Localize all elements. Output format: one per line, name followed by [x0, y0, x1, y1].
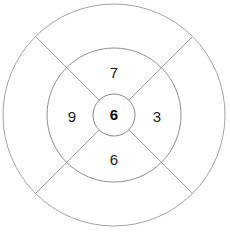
sector-value-right: 3 — [153, 108, 161, 125]
divider-line-upper-right — [129, 37, 193, 101]
divider-line-upper-left — [36, 37, 100, 101]
sector-value-bottom: 6 — [110, 151, 118, 168]
sector-value-left: 9 — [68, 108, 76, 125]
sector-value-top: 7 — [110, 64, 118, 81]
concentric-circle-puzzle-svg: 7 9 3 6 6 — [0, 0, 230, 235]
divider-line-lower-left — [36, 130, 100, 194]
center-value: 6 — [110, 106, 118, 123]
divider-line-lower-right — [129, 130, 193, 194]
puzzle-diagram-container: 7 9 3 6 6 — [0, 0, 230, 235]
